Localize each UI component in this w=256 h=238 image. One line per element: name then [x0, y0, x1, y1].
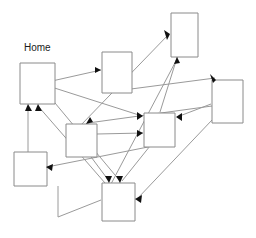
arrowhead-into-top-bottom — [174, 57, 180, 64]
node-center[interactable] — [144, 113, 175, 147]
arrowhead-into-upper-mid-left — [95, 67, 101, 73]
diagram-canvas: Home — [0, 0, 256, 238]
arrowhead-into-bottom-top-left — [105, 176, 112, 183]
node-mid-left[interactable] — [66, 124, 97, 157]
arrowhead-into-center-right — [176, 113, 182, 121]
node-home-label: Home — [24, 42, 51, 53]
node-bottom[interactable] — [102, 183, 135, 221]
edge-mid-left-to-center — [97, 133, 143, 134]
arrowhead-into-bottom-right — [135, 195, 142, 203]
node-right[interactable] — [212, 80, 243, 123]
graph-svg — [0, 0, 256, 238]
node-upper-mid[interactable] — [102, 52, 132, 93]
node-top[interactable] — [171, 13, 198, 57]
arrowhead-into-center-left-lower — [137, 130, 143, 137]
arrowhead-into-bottom-top-right — [116, 176, 123, 183]
arrowhead-into-home-bottom-right — [35, 104, 42, 111]
node-bottom-left[interactable] — [14, 152, 47, 186]
node-home[interactable] — [20, 63, 55, 104]
edge-bottom-to-bottom-left — [58, 200, 101, 217]
arrowhead-into-center-left-upper — [137, 112, 143, 120]
arrowhead-into-home-bottom-left — [25, 104, 32, 111]
